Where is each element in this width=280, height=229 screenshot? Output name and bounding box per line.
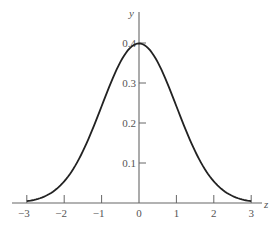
x-tick-label: 1 bbox=[174, 207, 180, 219]
x-tick-label: −3 bbox=[18, 207, 30, 219]
x-tick-label: −1 bbox=[93, 207, 105, 219]
x-axis-ticks: −3−2−10123 bbox=[18, 195, 255, 219]
x-tick-label: 2 bbox=[211, 207, 217, 219]
x-tick-label: −2 bbox=[55, 207, 67, 219]
axes bbox=[12, 12, 262, 203]
y-tick-label: 0.4 bbox=[122, 37, 136, 49]
y-tick-label: 0.3 bbox=[122, 77, 136, 89]
y-axis-label: y bbox=[128, 7, 134, 19]
x-tick-label: 3 bbox=[248, 207, 254, 219]
x-axis-label: z bbox=[263, 198, 269, 210]
y-tick-label: 0.2 bbox=[122, 117, 136, 129]
x-tick-label: 0 bbox=[136, 207, 142, 219]
normal-curve-chart: −3−2−10123 0.10.20.30.4 z y bbox=[0, 0, 280, 229]
y-tick-label: 0.1 bbox=[122, 157, 136, 169]
y-axis-ticks: 0.10.20.30.4 bbox=[122, 37, 146, 169]
